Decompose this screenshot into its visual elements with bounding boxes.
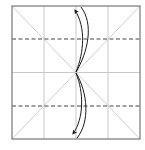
diagram-canvas bbox=[0, 0, 145, 150]
